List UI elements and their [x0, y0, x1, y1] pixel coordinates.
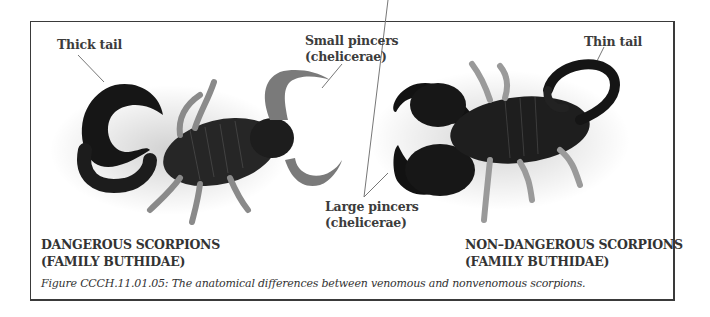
thin-tail-label: Thin tail [584, 34, 642, 49]
small-pincers-label-line2: (chelicerae) [305, 49, 387, 64]
large-pincers-label-line2: (chelicerae) [325, 215, 407, 230]
small-pincers-pointer [322, 64, 342, 88]
figure-caption: Figure CCCH.11.01.05: The anatomical dif… [41, 277, 585, 290]
dangerous-scorpion-image [50, 70, 342, 222]
non-dangerous-group-label-line2: (FAMILY BUTHIDAE) [465, 253, 609, 270]
thick-tail-pointer [78, 55, 104, 82]
thick-tail-label: Thick tail [57, 37, 122, 52]
dangerous-group-label-line1: DANGEROUS SCORPIONS [41, 236, 220, 253]
large-pincers-label-line1: Large pincers [325, 199, 419, 214]
non-dangerous-scorpion-image [370, 64, 630, 220]
non-dangerous-group-label-line1: NON–DANGEROUS SCORPIONS [465, 236, 683, 253]
small-pincers-label-line1: Small pincers [305, 33, 398, 48]
dangerous-group-label-line2: (FAMILY BUTHIDAE) [41, 253, 185, 270]
